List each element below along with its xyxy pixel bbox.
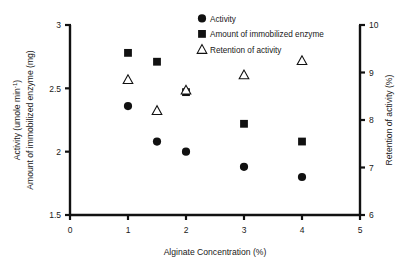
left-axis-title-line1: Activity (umole min-1) bbox=[11, 80, 23, 161]
right-tick-label: 6 bbox=[369, 210, 374, 220]
chart-legend: ActivityAmount of immobilized enzymeRete… bbox=[197, 14, 324, 54]
data-point bbox=[240, 163, 248, 171]
chart-figure: 1.522.53 678910 012345 Activity (umole m… bbox=[0, 0, 417, 269]
data-point bbox=[124, 49, 132, 57]
left-axis-tick-labels: 1.522.53 bbox=[49, 20, 61, 220]
data-point bbox=[239, 70, 249, 79]
left-tick-label: 3 bbox=[56, 20, 61, 30]
data-point bbox=[124, 102, 132, 110]
left-axis-title-line2: Amount of immobilized enzyme (mg) bbox=[25, 50, 35, 190]
legend-label: Amount of immobilized enzyme bbox=[210, 30, 324, 39]
legend-label: Activity bbox=[210, 15, 237, 24]
legend-label: Retention of activity bbox=[210, 46, 282, 55]
x-axis-tick-labels: 012345 bbox=[68, 225, 363, 235]
data-series-retention-of-activity bbox=[123, 56, 307, 115]
x-tick-label: 3 bbox=[242, 225, 247, 235]
left-tick-label: 2.5 bbox=[49, 84, 61, 94]
data-point bbox=[240, 120, 248, 128]
left-tick-label: 2 bbox=[56, 147, 61, 157]
data-point bbox=[152, 106, 162, 115]
x-axis-title: Alginate Concentration (%) bbox=[164, 247, 267, 257]
right-axis-title: Retention of activity (%) bbox=[384, 74, 394, 165]
right-tick-label: 10 bbox=[369, 20, 379, 30]
right-axis-tick-labels: 678910 bbox=[369, 20, 379, 220]
x-tick-label: 4 bbox=[300, 225, 305, 235]
data-point bbox=[153, 58, 161, 66]
data-series-activity bbox=[124, 102, 306, 181]
data-point bbox=[153, 137, 161, 145]
data-series-amount-of-immobilized-enzyme bbox=[124, 49, 306, 145]
data-point bbox=[123, 75, 133, 84]
data-point bbox=[182, 148, 190, 156]
left-axis-title: Activity (umole min-1) Amount of immobil… bbox=[11, 50, 36, 190]
x-tick-label: 2 bbox=[184, 225, 189, 235]
legend-marker bbox=[198, 30, 206, 38]
data-point bbox=[298, 173, 306, 181]
legend-marker bbox=[197, 45, 207, 54]
data-point bbox=[298, 138, 306, 146]
right-tick-label: 7 bbox=[369, 163, 374, 173]
right-tick-label: 9 bbox=[369, 68, 374, 78]
x-tick-label: 5 bbox=[358, 225, 363, 235]
x-tick-label: 1 bbox=[126, 225, 131, 235]
data-point bbox=[297, 56, 307, 65]
left-tick-label: 1.5 bbox=[49, 210, 61, 220]
legend-marker bbox=[198, 14, 206, 22]
right-tick-label: 8 bbox=[369, 115, 374, 125]
alginate-concentration-scatter-plot: 1.522.53 678910 012345 Activity (umole m… bbox=[0, 0, 417, 269]
x-tick-label: 0 bbox=[68, 225, 73, 235]
